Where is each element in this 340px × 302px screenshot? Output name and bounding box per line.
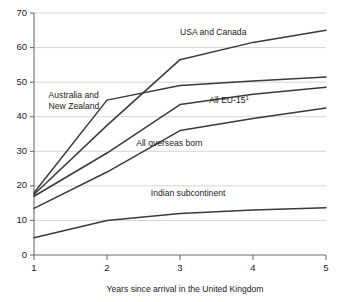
y-tick-label: 0 bbox=[22, 249, 27, 260]
chart-canvas: 010203040506070 12345 USA and CanadaAust… bbox=[0, 0, 340, 302]
x-tick-label: 4 bbox=[250, 262, 255, 273]
series-line-indian-subcontinent bbox=[34, 208, 326, 238]
series-label-all-overseas-born: All overseas born bbox=[136, 138, 203, 148]
series-labels: USA and CanadaAustralia andNew ZealandAl… bbox=[49, 27, 250, 198]
y-tick-label: 20 bbox=[16, 179, 27, 190]
y-tick-label: 30 bbox=[16, 145, 27, 156]
y-tick-label: 50 bbox=[16, 76, 27, 87]
line-chart: 010203040506070 12345 USA and CanadaAust… bbox=[0, 0, 340, 302]
series-label-australia-and-new-zealand: Australia andNew Zealand bbox=[49, 90, 100, 111]
y-tick-label: 60 bbox=[16, 41, 27, 52]
y-tick-label: 10 bbox=[16, 214, 27, 225]
x-tick-label: 5 bbox=[323, 262, 328, 273]
series-label-all-eu-15: All EU-151 bbox=[209, 95, 249, 105]
y-tick-label: 40 bbox=[16, 110, 27, 121]
x-tick-label: 1 bbox=[31, 262, 36, 273]
x-axis-title: Years since arrival in the United Kingdo… bbox=[107, 284, 264, 294]
series-label-indian-subcontinent: Indian subcontinent bbox=[151, 188, 226, 198]
series-label-usa-and-canada: USA and Canada bbox=[180, 27, 247, 37]
y-axis-ticks: 010203040506070 bbox=[16, 7, 34, 260]
x-tick-label: 2 bbox=[104, 262, 109, 273]
x-tick-label: 3 bbox=[177, 262, 182, 273]
y-tick-label: 70 bbox=[16, 7, 27, 18]
series-lines bbox=[34, 30, 326, 237]
x-axis-ticks: 12345 bbox=[31, 255, 328, 273]
